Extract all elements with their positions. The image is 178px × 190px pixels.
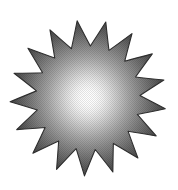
image-canvas: Sun Grayscale clipart of a sun with poin… xyxy=(0,0,178,190)
sun-illustration xyxy=(0,0,178,190)
